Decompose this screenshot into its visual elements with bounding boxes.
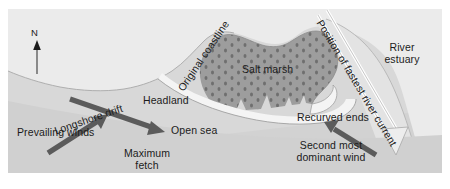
maximum-fetch-label: Maximum fetch: [109, 148, 185, 171]
north-arrow: N: [26, 27, 52, 75]
maximum-fetch-line-2: fetch: [135, 159, 158, 171]
river-estuary-line-1: River: [389, 41, 414, 53]
coastal-landform-figure: N Original coastline Salt marsh Headland…: [8, 9, 442, 173]
maximum-fetch-line-1: Maximum: [124, 147, 170, 159]
open-sea-label: Open sea: [171, 125, 217, 137]
diagram-stage: N Original coastline Salt marsh Headland…: [0, 0, 450, 189]
north-arrow-icon: [26, 38, 52, 78]
river-estuary-line-2: estuary: [384, 53, 419, 65]
headland-label: Headland: [143, 95, 189, 107]
salt-marsh-label: Salt marsh: [242, 64, 293, 76]
second-most-dominant-wind-label: Second most dominant wind: [280, 140, 382, 163]
second-most-dominant-wind-line-2: dominant wind: [296, 151, 365, 163]
recurved-ends-label: Recurved ends: [297, 112, 369, 124]
prevailing-winds-label: Prevailing winds: [17, 127, 94, 139]
river-estuary-label: River estuary: [373, 42, 431, 65]
second-most-dominant-wind-line-1: Second most: [300, 139, 362, 151]
north-label: N: [31, 27, 38, 38]
